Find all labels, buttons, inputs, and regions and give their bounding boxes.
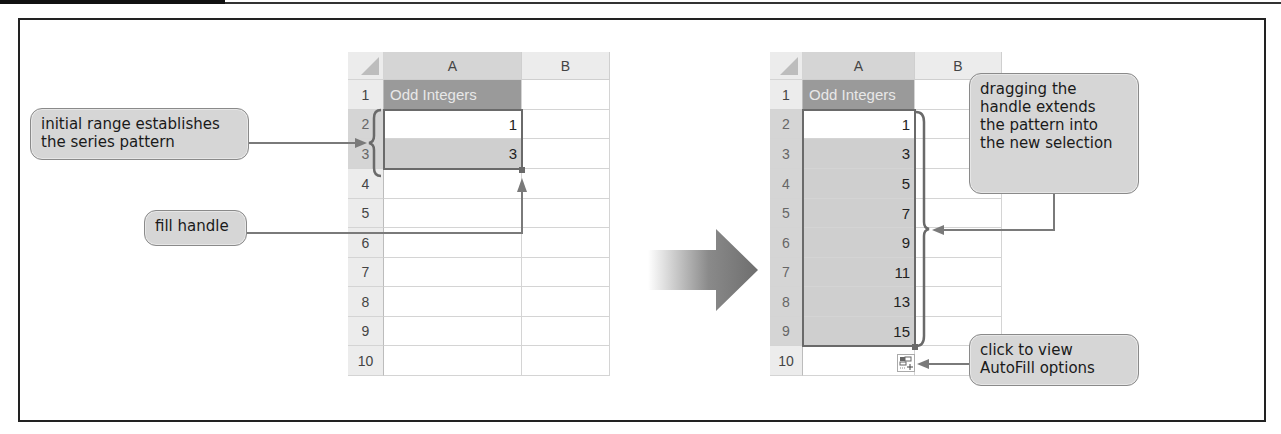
row-header-7[interactable]: 7 [348, 258, 384, 287]
cell-a8[interactable] [384, 287, 522, 317]
arrow-left-icon [932, 225, 944, 235]
top-rule [225, 2, 1281, 4]
callout-text-line: handle extends [980, 98, 1128, 116]
callout-text-line: fill handle [155, 217, 236, 235]
brace-initial-range [368, 108, 384, 178]
callout-text-line: the new selection [980, 134, 1128, 152]
arrow-right-icon [355, 138, 367, 148]
row-header-4[interactable]: 4 [770, 169, 803, 199]
row-header-9[interactable]: 9 [348, 317, 384, 346]
row-header-7[interactable]: 7 [770, 258, 803, 287]
callout-dragging-handle: dragging the handle extends the pattern … [969, 73, 1139, 194]
cell-b10[interactable] [522, 346, 610, 376]
cell-a1[interactable]: Odd Integers [803, 80, 915, 110]
cell-b1[interactable] [522, 80, 610, 110]
arrow-left-icon [917, 359, 929, 369]
cell-b9[interactable] [522, 317, 610, 346]
connector-dragging-h [944, 229, 1055, 231]
connector-autofill [927, 363, 969, 365]
selection-range-a2-a9 [802, 109, 916, 347]
select-all-corner[interactable] [348, 52, 384, 80]
row-header-3[interactable]: 3 [770, 139, 803, 169]
callout-text-line: AutoFill options [980, 359, 1128, 377]
callout-text-line: initial range establishes [41, 115, 238, 133]
connector-dragging-v [1053, 194, 1055, 230]
row-header-5[interactable]: 5 [770, 199, 803, 228]
cell-a10[interactable] [384, 346, 522, 376]
autofill-options-icon[interactable] [897, 354, 915, 372]
callout-text-line: click to view [980, 341, 1128, 359]
callout-text-line: the series pattern [41, 133, 238, 151]
callout-text-line: the pattern into [980, 116, 1128, 134]
row-header-8[interactable]: 8 [348, 287, 384, 317]
row-header-8[interactable]: 8 [770, 287, 803, 317]
callout-fill-handle: fill handle [144, 210, 247, 246]
cell-a4[interactable] [384, 169, 522, 199]
row-header-6[interactable]: 6 [770, 228, 803, 258]
arrow-up-icon [517, 178, 527, 192]
cell-b5[interactable] [522, 199, 610, 228]
column-header-a[interactable]: A [803, 52, 915, 80]
cell-a9[interactable] [384, 317, 522, 346]
cell-a1[interactable]: Odd Integers [384, 80, 522, 110]
connector-initial-range [249, 142, 355, 144]
brace-new-selection [913, 110, 931, 350]
row-header-2[interactable]: 2 [770, 110, 803, 139]
row-header-10[interactable]: 10 [348, 346, 384, 376]
callout-initial-range: initial range establishes the series pat… [30, 108, 249, 160]
cell-a7[interactable] [384, 258, 522, 287]
cell-b8[interactable] [522, 287, 610, 317]
row-header-5[interactable]: 5 [348, 199, 384, 228]
connector-fill-handle-h [247, 232, 522, 234]
select-all-corner[interactable] [770, 52, 803, 80]
row-header-9[interactable]: 9 [770, 317, 803, 346]
cell-b2[interactable] [522, 110, 610, 139]
column-header-b[interactable]: B [522, 52, 610, 80]
cell-b3[interactable] [522, 139, 610, 169]
row-header-1[interactable]: 1 [770, 80, 803, 110]
cell-b4[interactable] [522, 169, 610, 199]
callout-autofill-options: click to view AutoFill options [969, 334, 1139, 386]
right-arrow-icon [648, 229, 758, 311]
fill-handle[interactable] [519, 167, 525, 173]
column-header-a[interactable]: A [384, 52, 522, 80]
row-header-10[interactable]: 10 [770, 346, 803, 376]
row-header-1[interactable]: 1 [348, 80, 384, 110]
callout-text-line: dragging the [980, 80, 1128, 98]
cell-b7[interactable] [522, 258, 610, 287]
selection-range-a2-a3 [383, 109, 523, 170]
connector-fill-handle-v [521, 190, 523, 234]
top-bar-dark [0, 0, 225, 4]
cell-a5[interactable] [384, 199, 522, 228]
cell-b6[interactable] [522, 228, 610, 258]
